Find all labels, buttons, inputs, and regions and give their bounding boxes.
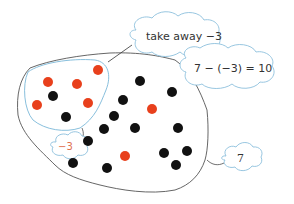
- black-dot: [118, 95, 128, 105]
- black-dot: [159, 148, 169, 158]
- black-dot: [109, 111, 119, 121]
- red-dot: [72, 79, 82, 89]
- black-dot: [130, 123, 140, 133]
- red-dot: [32, 100, 42, 110]
- black-dot: [173, 123, 183, 133]
- black-dot: [61, 112, 71, 122]
- red-dot: [120, 151, 130, 161]
- black-dot: [182, 146, 192, 156]
- take-away-text: take away −3: [146, 30, 222, 43]
- diagram-canvas: take away −3 7 − (−3) = 10 −3 7: [0, 0, 294, 204]
- black-dot: [167, 87, 177, 97]
- black-dot: [83, 136, 93, 146]
- red-dot: [43, 77, 53, 87]
- equation-text: 7 − (−3) = 10: [194, 62, 272, 75]
- red-dot: [147, 104, 157, 114]
- equation-cloud: 7 − (−3) = 10: [180, 44, 274, 89]
- red-dot: [83, 98, 93, 108]
- total-label-connector: [207, 160, 224, 165]
- total-label-text: 7: [237, 152, 244, 165]
- black-dot: [48, 91, 58, 101]
- black-dot: [135, 76, 145, 86]
- group-label-cloud: −3: [51, 132, 89, 159]
- group-label-text: −3: [58, 141, 73, 152]
- black-dot: [171, 160, 181, 170]
- black-dot: [102, 163, 112, 173]
- total-set-outline: [18, 53, 209, 192]
- black-dot: [68, 158, 78, 168]
- total-label-cloud: 7: [222, 143, 262, 171]
- black-dot: [99, 124, 109, 134]
- red-dot: [93, 65, 103, 75]
